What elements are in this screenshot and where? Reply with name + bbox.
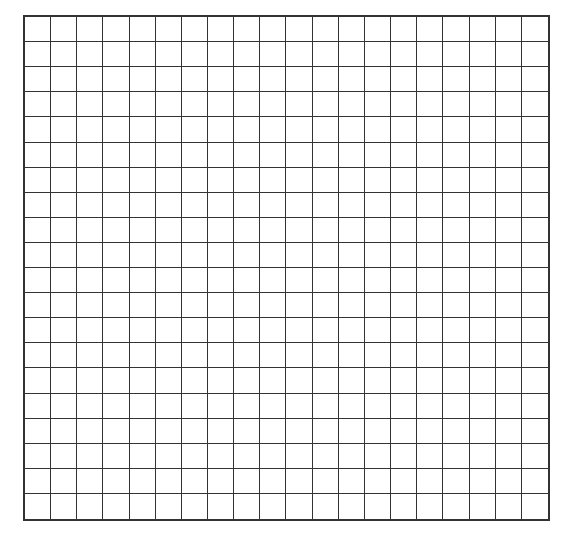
grid-cell (365, 168, 391, 193)
grid-cell (470, 343, 496, 368)
grid-cell (391, 67, 417, 92)
grid-cell (365, 368, 391, 393)
grid-cell (339, 143, 365, 168)
grid-cell (182, 419, 208, 444)
blank-square-grid (23, 15, 550, 521)
grid-cell (156, 494, 182, 519)
grid-cell (208, 67, 234, 92)
grid-cell (313, 494, 339, 519)
grid-cell (182, 343, 208, 368)
grid-cell (103, 67, 129, 92)
grid-cell (77, 419, 103, 444)
grid-cell (182, 444, 208, 469)
grid-cell (103, 168, 129, 193)
grid-cell (208, 42, 234, 67)
grid-cell (522, 17, 548, 42)
grid-cell (234, 368, 260, 393)
grid-cell (208, 494, 234, 519)
grid-cell (51, 494, 77, 519)
grid-cell (51, 444, 77, 469)
grid-cell (417, 143, 443, 168)
grid-cell (260, 469, 286, 494)
grid-cell (470, 243, 496, 268)
grid-cell (103, 343, 129, 368)
grid-cell (443, 17, 469, 42)
grid-cell (313, 143, 339, 168)
grid-cell (365, 494, 391, 519)
grid-cell (130, 343, 156, 368)
grid-cell (470, 419, 496, 444)
grid-cell (339, 368, 365, 393)
grid-cell (234, 419, 260, 444)
grid-cell (25, 368, 51, 393)
grid-cell (234, 293, 260, 318)
grid-cell (182, 218, 208, 243)
grid-cell (156, 168, 182, 193)
grid-cell (182, 42, 208, 67)
grid-cell (130, 193, 156, 218)
grid-cell (470, 494, 496, 519)
grid-cell (339, 419, 365, 444)
grid-cell (234, 494, 260, 519)
grid-cell (286, 92, 312, 117)
grid-cell (417, 368, 443, 393)
grid-cell (443, 243, 469, 268)
grid-cell (130, 419, 156, 444)
grid-cell (130, 494, 156, 519)
grid-cell (182, 168, 208, 193)
grid-cell (25, 343, 51, 368)
grid-cell (25, 168, 51, 193)
grid-cell (234, 394, 260, 419)
grid-cell (130, 293, 156, 318)
grid-cell (496, 444, 522, 469)
grid-cell (234, 243, 260, 268)
grid-cell (313, 17, 339, 42)
grid-cell (443, 193, 469, 218)
grid-cell (77, 293, 103, 318)
grid-cell (25, 218, 51, 243)
grid-cell (182, 193, 208, 218)
grid-cell (51, 193, 77, 218)
grid-cell (313, 293, 339, 318)
grid-cell (313, 368, 339, 393)
grid-cell (391, 469, 417, 494)
grid-cell (496, 368, 522, 393)
grid-cell (130, 17, 156, 42)
grid-cell (417, 268, 443, 293)
grid-cell (339, 318, 365, 343)
grid-cell (156, 17, 182, 42)
grid-cell (443, 494, 469, 519)
grid-cell (417, 394, 443, 419)
grid-cell (443, 42, 469, 67)
grid-cell (313, 343, 339, 368)
grid-cell (496, 17, 522, 42)
grid-cell (417, 243, 443, 268)
grid-cell (470, 444, 496, 469)
grid-cell (77, 218, 103, 243)
grid-cell (522, 193, 548, 218)
grid-cell (286, 268, 312, 293)
grid-cell (522, 243, 548, 268)
grid-cell (365, 268, 391, 293)
grid-cell (103, 419, 129, 444)
grid-cell (103, 444, 129, 469)
grid-cell (339, 394, 365, 419)
grid-cell (182, 268, 208, 293)
grid-cell (260, 268, 286, 293)
grid-cell (443, 67, 469, 92)
grid-cell (313, 268, 339, 293)
grid-cell (234, 67, 260, 92)
grid-cell (365, 318, 391, 343)
grid-cell (25, 394, 51, 419)
grid-cell (313, 419, 339, 444)
grid-cell (443, 92, 469, 117)
grid-cell (522, 494, 548, 519)
grid-cell (130, 218, 156, 243)
grid-cell (522, 168, 548, 193)
grid-cell (391, 494, 417, 519)
grid-cell (365, 92, 391, 117)
grid-cell (182, 243, 208, 268)
grid-cell (208, 143, 234, 168)
grid-cell (286, 168, 312, 193)
grid-cell (208, 394, 234, 419)
